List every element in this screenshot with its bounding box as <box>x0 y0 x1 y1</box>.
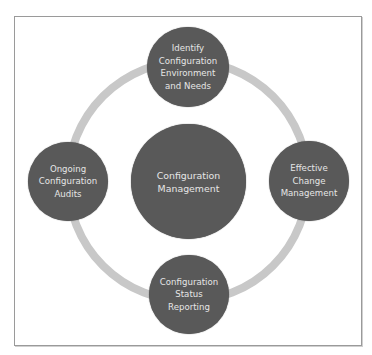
node-label-line: Reporting <box>156 301 222 314</box>
node-label-line: Configuration <box>35 175 101 188</box>
node-label-line: Audits <box>35 188 101 201</box>
node-label-line: Effective <box>277 162 342 175</box>
node-effective-change-management: Effective Change Management <box>269 141 349 221</box>
node-label-line: Change <box>277 175 342 188</box>
center-label-line: Management <box>153 182 225 195</box>
node-ongoing-configuration-audits: Ongoing Configuration Audits <box>28 142 108 221</box>
node-label-line: Management <box>277 187 342 200</box>
center-node-configuration-management: Configuration Management <box>131 124 246 239</box>
node-identify-configuration-environment: Identify Configuration Environment and N… <box>147 27 229 107</box>
node-label-line: Configuration <box>155 55 221 68</box>
node-label-line: and Needs <box>155 80 221 93</box>
center-label-line: Configuration <box>153 169 225 182</box>
node-label-line: Configuration <box>156 276 222 289</box>
node-label-line: Environment <box>155 67 221 80</box>
node-configuration-status-reporting: Configuration Status Reporting <box>149 255 229 334</box>
node-label-line: Status <box>156 288 222 301</box>
node-label-line: Identify <box>155 42 221 55</box>
node-label-line: Ongoing <box>35 163 101 176</box>
